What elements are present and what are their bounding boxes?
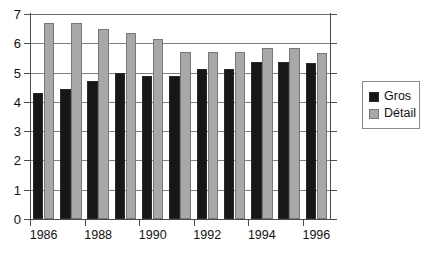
legend-item-detail: Détail xyxy=(369,105,414,122)
bar-gros-1991 xyxy=(169,76,180,219)
legend-label-gros: Gros xyxy=(384,90,411,103)
bar-detail-1991 xyxy=(180,52,191,219)
bar-detail-1986 xyxy=(44,23,55,219)
y-axis-label: 6 xyxy=(0,36,21,51)
x-axis-label: 1990 xyxy=(133,228,173,242)
y-axis-label: 4 xyxy=(0,95,21,110)
y-axis-tick-right xyxy=(331,102,337,103)
legend-item-gros: Gros xyxy=(369,88,414,105)
bar-detail-1993 xyxy=(235,52,246,219)
y-axis-label: 3 xyxy=(0,124,21,139)
x-axis-tick xyxy=(85,220,86,226)
x-axis-tick xyxy=(194,220,195,226)
bar-gros-1995 xyxy=(278,62,289,219)
bar-gros-1996 xyxy=(306,63,317,219)
y-axis-label: 5 xyxy=(0,66,21,81)
plot-area xyxy=(30,14,330,219)
x-axis-tick xyxy=(303,220,304,226)
legend-swatch-gros-icon xyxy=(369,92,379,102)
bar-gros-1992 xyxy=(197,69,208,219)
bar-chart: 01234567 198619881990199219941996 Gros D… xyxy=(0,0,432,260)
bar-detail-1994 xyxy=(262,48,273,219)
y-axis-tick-right xyxy=(331,73,337,74)
y-axis-tick-right xyxy=(331,14,337,15)
y-axis-tick-right xyxy=(331,190,337,191)
bar-gros-1987 xyxy=(60,89,71,219)
y-axis-tick-right xyxy=(331,160,337,161)
x-axis-label: 1988 xyxy=(78,228,118,242)
bar-gros-1990 xyxy=(142,76,153,220)
y-axis-line-right xyxy=(330,13,331,220)
y-axis-tick-right xyxy=(331,43,337,44)
legend-swatch-detail-icon xyxy=(369,109,379,119)
x-axis-label: 1996 xyxy=(296,228,336,242)
bar-detail-1990 xyxy=(153,39,164,219)
y-axis-label: 1 xyxy=(0,183,21,198)
x-axis-label: 1994 xyxy=(242,228,282,242)
x-axis-tick xyxy=(248,220,249,226)
y-axis-label: 7 xyxy=(0,7,21,22)
x-axis-label: 1992 xyxy=(187,228,227,242)
bar-detail-1995 xyxy=(289,48,300,219)
y-axis-label: 0 xyxy=(0,212,21,227)
bar-gros-1993 xyxy=(224,69,235,219)
bar-detail-1992 xyxy=(208,52,219,219)
bar-detail-1987 xyxy=(71,23,82,219)
bar-gros-1989 xyxy=(115,73,126,219)
legend-label-detail: Détail xyxy=(384,107,416,120)
x-axis-line xyxy=(24,219,336,220)
y-axis-tick-right xyxy=(331,131,337,132)
x-axis-label: 1986 xyxy=(24,228,64,242)
bar-gros-1988 xyxy=(87,81,98,219)
bar-gros-1994 xyxy=(251,62,262,219)
x-axis-tick xyxy=(139,220,140,226)
x-axis-tick xyxy=(30,220,31,226)
bar-detail-1988 xyxy=(98,29,109,219)
bar-detail-1996 xyxy=(317,53,328,219)
chart-legend: Gros Détail xyxy=(362,81,420,129)
bar-gros-1986 xyxy=(33,93,44,219)
bar-detail-1989 xyxy=(126,33,137,219)
y-axis-label: 2 xyxy=(0,153,21,168)
